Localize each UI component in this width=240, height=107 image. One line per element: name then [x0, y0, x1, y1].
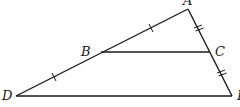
label-c: C — [215, 44, 225, 59]
label-d: D — [1, 88, 13, 103]
label-a: A — [182, 0, 192, 8]
label-e: E — [236, 88, 240, 103]
label-b: B — [80, 44, 91, 59]
double-tick-mark-ce — [217, 70, 227, 76]
triangle-diagram: A B C D E — [0, 0, 240, 107]
double-tick-mark-ac — [194, 25, 204, 31]
